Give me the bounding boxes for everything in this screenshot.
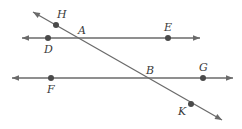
arrowhead-icon [226, 75, 233, 81]
point-G [200, 75, 206, 81]
geometry-diagram: HADEBGFK [0, 0, 242, 129]
label-D: D [43, 43, 53, 56]
point-H [53, 22, 59, 28]
label-A: A [77, 24, 86, 37]
point-D [45, 35, 51, 41]
point-K [188, 101, 194, 107]
arrowhead-icon [12, 75, 19, 81]
arrowhead-icon [22, 35, 29, 41]
label-E: E [163, 21, 172, 34]
label-H: H [56, 8, 67, 21]
label-F: F [46, 83, 55, 96]
arrowhead-icon [215, 114, 222, 120]
label-G: G [199, 61, 208, 74]
label-K: K [177, 105, 187, 118]
label-B: B [145, 64, 154, 77]
labels: HADEBGFK [43, 8, 208, 118]
point-F [48, 75, 54, 81]
line-FG [12, 75, 233, 81]
arrowhead-icon [33, 12, 40, 18]
point-E [165, 35, 171, 41]
arrowhead-icon [193, 35, 200, 41]
